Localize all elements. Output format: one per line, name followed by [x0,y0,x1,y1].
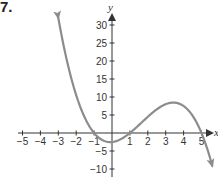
x-tick-label: 4 [181,136,187,147]
x-tick-label: −3 [53,136,65,147]
x-axis-label: x [213,126,218,138]
x-tick-label: −5 [17,136,29,147]
y-tick-label: −5 [96,146,108,157]
y-tick-label: 20 [96,56,108,67]
x-tick-label: 3 [163,136,169,147]
y-tick-label: 5 [101,110,107,121]
x-tick-label: 1 [127,136,133,147]
y-axis-label: y [107,1,113,13]
y-tick-label: −10 [90,164,107,175]
y-tick-label: 10 [96,92,108,103]
x-tick-label: 2 [145,136,151,147]
y-tick-label: 15 [96,74,108,85]
axes [18,15,212,177]
x-tick-label: −4 [35,136,47,147]
cubic-graph: xy−5−4−3−2−112345−10−551015202530 [0,0,218,179]
x-tick-label: −2 [70,136,82,147]
tick-labels: xy−5−4−3−2−112345−10−551015202530 [17,1,218,175]
y-tick-label: 30 [96,20,108,31]
y-tick-label: 25 [96,38,108,49]
